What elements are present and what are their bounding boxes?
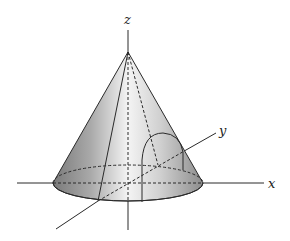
z-axis-label: z: [123, 12, 131, 27]
x-axis-label: x: [268, 176, 276, 191]
y-axis-label: y: [218, 123, 227, 138]
cone-diagram: z y x: [0, 0, 290, 241]
